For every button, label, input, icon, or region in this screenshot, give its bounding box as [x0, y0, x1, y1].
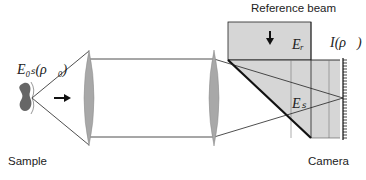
camera-sensor [343, 58, 347, 140]
arrow-right-icon [54, 94, 71, 102]
sample-label: Sample [8, 155, 47, 167]
reference-beam-label: Reference beam [251, 2, 336, 14]
interference-region [228, 60, 340, 138]
intensity-label: I(ρ⃗) [330, 35, 362, 51]
camera-label: Camera [308, 155, 349, 167]
sample-icon [19, 83, 31, 111]
lens-1 [84, 50, 94, 146]
reference-field-label: Eᵣ [292, 37, 304, 53]
signal-field-label: Eₛ [292, 95, 306, 112]
lens-2 [209, 50, 219, 146]
object-field-label: E₀ₛ(ρ⃗₀) [17, 61, 67, 78]
holography-setup-diagram [0, 0, 366, 180]
